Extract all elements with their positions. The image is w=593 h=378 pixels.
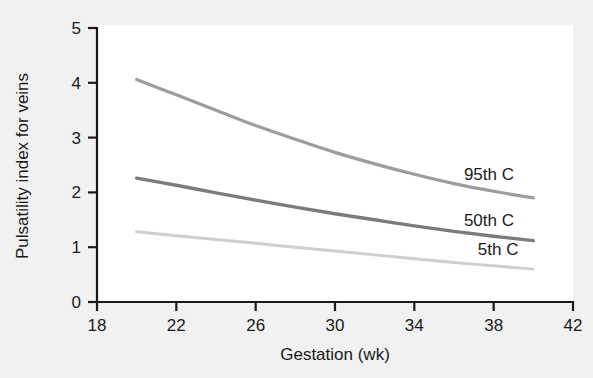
x-tick-label: 30	[326, 316, 345, 335]
series-label-95th-c: 95th C	[464, 165, 514, 184]
y-tick-label: 0	[72, 293, 81, 312]
x-tick-label: 42	[564, 316, 583, 335]
series-label-5th-c: 5th C	[478, 240, 519, 259]
series-label-50th-c: 50th C	[464, 211, 514, 230]
chart-canvas: 01234518222630343842 95th C50th C5th C G…	[0, 0, 593, 378]
x-tick-label: 26	[246, 316, 265, 335]
y-tick-label: 1	[72, 238, 81, 257]
plot-background	[97, 25, 573, 302]
y-tick-label: 2	[72, 183, 81, 202]
x-tick-label: 22	[167, 316, 186, 335]
y-axis-title: Pulsatility index for veins	[13, 73, 32, 259]
y-tick-label: 3	[72, 129, 81, 148]
x-tick-label: 34	[405, 316, 424, 335]
x-axis-title: Gestation (wk)	[280, 345, 390, 364]
y-tick-label: 4	[72, 74, 81, 93]
x-tick-label: 38	[484, 316, 503, 335]
chart-figure: 01234518222630343842 95th C50th C5th C G…	[0, 0, 593, 378]
x-tick-label: 18	[88, 316, 107, 335]
y-tick-label: 5	[72, 19, 81, 38]
